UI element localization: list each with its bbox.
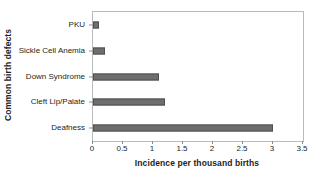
y-axis-title: Common birth defects <box>0 0 16 150</box>
y-axis-tick-label: PKU <box>69 19 85 28</box>
bar <box>93 73 159 80</box>
x-axis-tick-label: 1 <box>150 144 154 153</box>
y-tick-mark <box>89 76 93 77</box>
bar <box>93 99 165 106</box>
y-axis-tick-labels: PKUSickle Cell AnemiaDown SyndromeCleft … <box>16 11 89 140</box>
plot-area <box>92 11 304 142</box>
bar <box>93 47 105 54</box>
x-axis-tick-label: 0.5 <box>116 144 127 153</box>
x-axis-tick-label: 1.5 <box>176 144 187 153</box>
x-axis-ticks: 00.511.522.533.5 <box>92 141 302 155</box>
x-axis-tick-label: 2.5 <box>236 144 247 153</box>
x-axis-tick-label: 3 <box>270 144 274 153</box>
y-axis-tick-label: Cleft Lip/Palate <box>31 97 85 106</box>
x-axis-tick-label: 0 <box>90 144 94 153</box>
bar <box>93 125 273 132</box>
bar <box>93 21 99 28</box>
y-tick-mark <box>89 128 93 129</box>
x-axis-title: Incidence per thousand births <box>92 158 302 168</box>
bar-chart-figure: Common birth defects PKUSickle Cell Anem… <box>0 0 321 176</box>
y-tick-mark <box>89 24 93 25</box>
x-axis-tick-label: 3.5 <box>296 144 307 153</box>
y-axis-tick-label: Sickle Cell Anemia <box>19 45 85 54</box>
bars-container <box>93 12 303 141</box>
y-axis-tick-label: Down Syndrome <box>26 71 85 80</box>
x-axis-tick-label: 2 <box>210 144 214 153</box>
y-axis-tick-label: Deafness <box>51 123 85 132</box>
y-tick-mark <box>89 50 93 51</box>
y-tick-mark <box>89 102 93 103</box>
y-axis-title-text: Common birth defects <box>3 29 13 121</box>
